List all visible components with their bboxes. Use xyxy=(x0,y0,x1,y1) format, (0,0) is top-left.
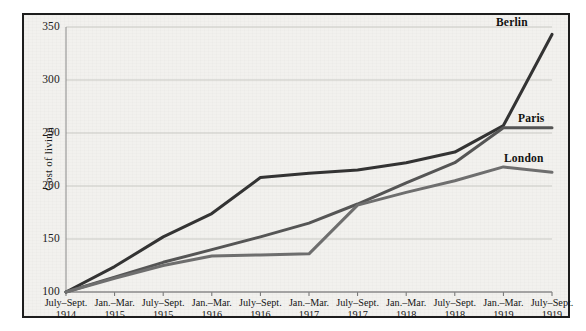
series-label-paris: Paris xyxy=(518,112,545,124)
x-axis-tick-label: July–Sept.1919 xyxy=(521,297,583,320)
figure-container: Cost of living 350300250200150100 July–S… xyxy=(0,0,586,331)
series-label-berlin: Berlin xyxy=(496,16,528,28)
y-axis-tick-label: 150 xyxy=(28,232,60,244)
y-axis-tick-label: 100 xyxy=(28,285,60,297)
chart-frame: Cost of living 350300250200150100 July–S… xyxy=(22,13,570,318)
series-lines xyxy=(66,34,552,292)
y-axis-tick-label: 350 xyxy=(28,20,60,32)
x-axis-ticks xyxy=(66,292,552,296)
x-tick-year: 1919 xyxy=(521,309,583,321)
y-axis-tick-label: 300 xyxy=(28,73,60,85)
series-line-paris xyxy=(66,128,552,292)
x-tick-period: July–Sept. xyxy=(521,297,583,309)
series-label-london: London xyxy=(504,152,544,164)
plot-area xyxy=(24,15,568,316)
y-axis-tick-label: 200 xyxy=(28,179,60,191)
y-axis-tick-label: 250 xyxy=(28,126,60,138)
